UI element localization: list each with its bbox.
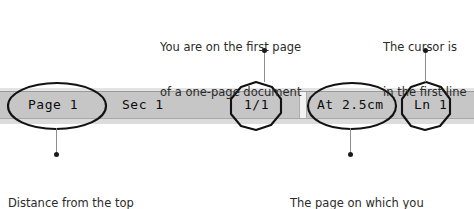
callout-line: The cursor is [383,40,467,55]
callout-cursor-first-line: The cursor is in the first line [383,10,467,130]
callout-line: of a one-page document [160,85,301,100]
callout-line: Distance from the top [8,196,134,209]
diagram-canvas: Page 1 Sec 1 1/1 At 2.5cm Ln 1 You are o… [0,0,474,209]
callout-line: in the first line [383,85,467,100]
leader-dot-page-currently-typing [348,152,353,157]
leader-line-distance-from-top [56,128,57,154]
callout-page-currently-typing: The page on which you are currently typi… [290,166,424,209]
leader-line-page-currently-typing [350,128,351,154]
callout-one-page-document: You are on the first page of a one-page … [160,10,301,130]
callout-line: You are on the first page [160,40,301,55]
status-item-vertical-position[interactable]: At 2.5cm [317,94,384,116]
status-item-section[interactable]: Sec 1 [122,94,164,116]
callout-distance-from-top: Distance from the top of the page [8,166,134,209]
status-item-page[interactable]: Page 1 [28,94,78,116]
leader-dot-distance-from-top [54,152,59,157]
callout-line: The page on which you [290,196,424,209]
